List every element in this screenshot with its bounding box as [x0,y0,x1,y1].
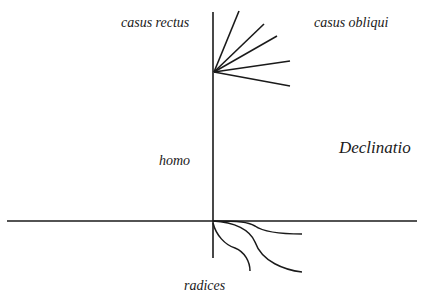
branch-5 [214,72,290,86]
branch-1 [214,11,239,72]
label-declinatio: Declinatio [339,139,411,156]
root-2 [213,221,302,272]
casus-obliqui-branches [214,11,290,86]
label-casus-rectus: casus rectus [121,16,189,30]
declinatio-diagram: casus rectus casus obliqui Declinatio ho… [0,0,422,300]
branch-4 [214,61,290,72]
label-casus-obliqui: casus obliqui [314,16,388,30]
label-radices: radices [184,279,225,293]
radices-roots [213,221,302,272]
label-homo: homo [159,154,190,168]
